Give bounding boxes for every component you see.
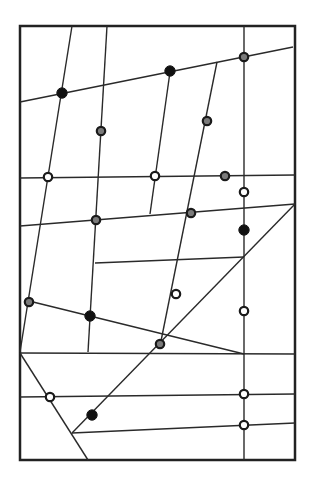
white-node-n7: [151, 172, 159, 180]
edge-slant-302: [29, 301, 244, 354]
edge-h-397: [20, 394, 295, 397]
network-diagram: [0, 0, 314, 488]
gray-node-n11: [187, 209, 195, 217]
gray-node-n17: [156, 340, 164, 348]
edge-h-226: [20, 204, 295, 226]
white-node-n21: [240, 421, 248, 429]
gray-node-n4: [97, 127, 105, 135]
black-node-n12: [239, 225, 249, 235]
gray-node-n3: [240, 53, 248, 61]
edge-slant-bottom-left: [20, 353, 88, 460]
black-node-n2: [165, 66, 175, 76]
black-node-n20: [87, 410, 97, 420]
white-node-n19: [240, 390, 248, 398]
black-node-n15: [85, 311, 95, 321]
edge-line-c-upper: [150, 72, 170, 214]
edge-line-d: [160, 62, 217, 346]
edge-h-263: [95, 257, 244, 263]
diagram-canvas: [0, 0, 314, 488]
black-node-n1: [57, 88, 67, 98]
edge-line-b: [88, 26, 107, 352]
white-node-n6: [44, 173, 52, 181]
white-node-n9: [240, 188, 248, 196]
white-node-n13: [172, 290, 180, 298]
edge-diagonal: [72, 204, 295, 433]
edge-h-352: [20, 353, 295, 354]
gray-node-n5: [203, 117, 211, 125]
edge-h-433: [72, 423, 295, 433]
gray-node-n8: [221, 172, 229, 180]
white-node-n18: [46, 393, 54, 401]
white-node-n16: [240, 307, 248, 315]
gray-node-n10: [92, 216, 100, 224]
gray-node-n14: [25, 298, 33, 306]
